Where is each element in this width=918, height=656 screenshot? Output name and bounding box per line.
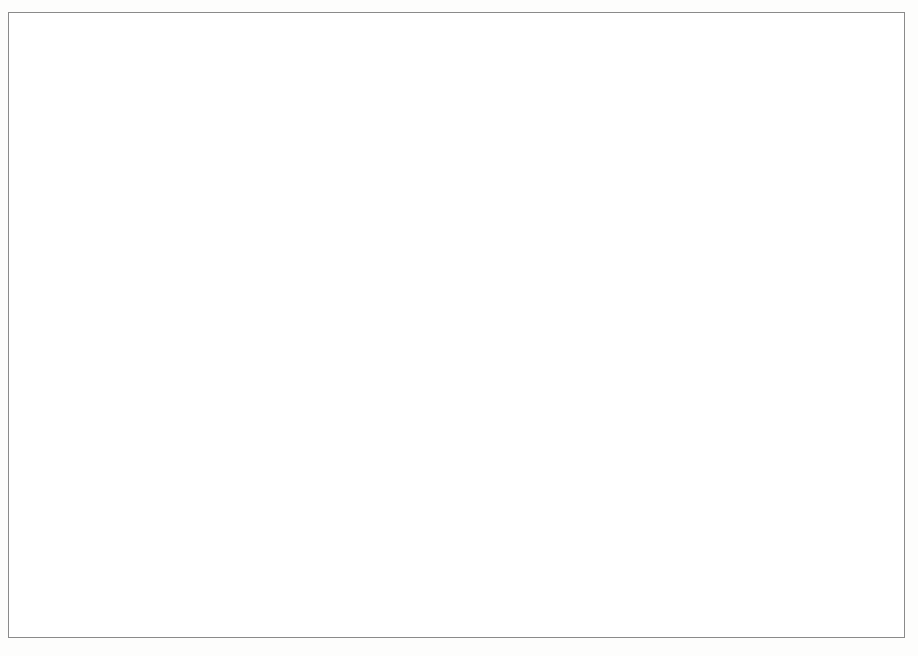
figure-frame bbox=[8, 12, 905, 638]
chart-figure: 040.00080.000120.000160.000200.000 US$ m… bbox=[0, 0, 918, 656]
